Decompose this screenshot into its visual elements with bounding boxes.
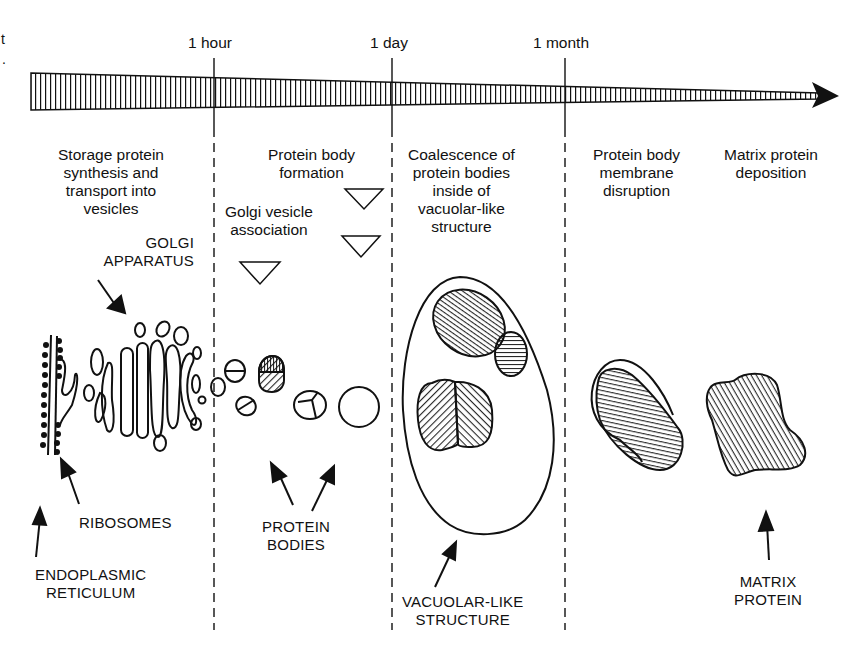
endoplasmic-reticulum-drawing [40, 335, 77, 455]
protein-bodies-right-arrow-icon [312, 466, 334, 511]
down-arrow-icon [342, 236, 380, 257]
vacuolar-pointer-arrow-icon [435, 542, 456, 587]
stage-label-synthesis: Storage protein synthesis and transport … [58, 146, 164, 218]
stage-label-protein-body-formation: Protein body formation [268, 146, 355, 182]
matrix-protein-drawing [707, 374, 805, 476]
ribosomes-pointer-arrow-icon [61, 459, 79, 504]
golgi-pointer-arrow-icon [98, 280, 125, 313]
callout-endoplasmic-reticulum: ENDOPLASMIC RETICULUM [35, 566, 146, 602]
protein-bodies-left-arrow-icon [271, 463, 293, 505]
golgi-apparatus-drawing [84, 319, 206, 451]
er-pointer-arrow-icon [33, 508, 46, 557]
stage-label-golgi-vesicle-association: Golgi vesicle association [225, 203, 313, 239]
callout-vacuolar-like-structure: VACUOLAR-LIKE STRUCTURE [402, 593, 524, 629]
callout-ribosomes: RIBOSOMES [79, 514, 172, 532]
matrix-pointer-arrow-icon [759, 512, 773, 560]
down-arrow-icon [345, 189, 383, 209]
callout-golgi-apparatus: GOLGI APPARATUS [82, 234, 194, 270]
down-arrow-icon [240, 262, 280, 284]
stage-label-membrane-disruption: Protein body membrane disruption [593, 146, 680, 200]
membrane-disruption-drawing [592, 360, 683, 470]
callout-protein-bodies: PROTEIN BODIES [262, 518, 330, 554]
vacuolar-structure-drawing [403, 276, 554, 534]
timeline-bar [31, 73, 839, 110]
callout-matrix-protein: MATRIX PROTEIN [734, 573, 802, 609]
stage-label-coalescence: Coalescence of protein bodies inside of … [408, 146, 515, 236]
stage-label-matrix-deposition: Matrix protein deposition [724, 146, 818, 182]
protein-bodies-drawing [211, 356, 379, 427]
